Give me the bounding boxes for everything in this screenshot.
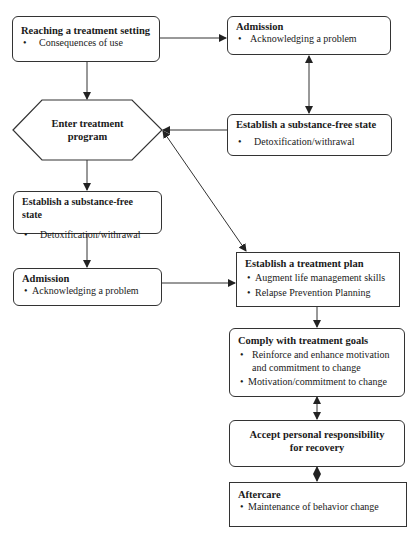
bullet-item: Reinforce and enhance motivation and com… <box>238 349 396 374</box>
bullet-item: Acknowledging a problem <box>22 285 153 298</box>
node-title: Establish a substance-free state <box>22 195 153 221</box>
bullet-item: Consequences of use <box>21 37 151 50</box>
node-enter-treatment-program: Enter treatment program <box>40 117 135 143</box>
node-substance-free-left: Establish a substance-free state Detoxif… <box>13 191 162 234</box>
node-title: Admission <box>236 20 382 33</box>
bullet-item: Motivation/commitment to change <box>238 376 396 389</box>
node-admission-left: Admission Acknowledging a problem <box>13 268 162 306</box>
node-reaching-treatment-setting: Reaching a treatment setting Consequence… <box>12 16 160 62</box>
bullet-item: Maintenance of behavior change <box>238 501 398 514</box>
node-admission-right: Admission Acknowledging a problem <box>227 16 391 55</box>
hex-line-2: program <box>40 130 135 143</box>
bullet-item: Detoxification/withrawal <box>22 229 153 242</box>
node-treatment-plan: Establish a treatment plan Augment life … <box>236 252 400 307</box>
node-title-line-2: for recovery <box>238 441 396 454</box>
node-substance-free-right: Establish a substance-free state Detoxif… <box>227 114 392 156</box>
hex-line-1: Enter treatment <box>40 117 135 130</box>
node-title: Reaching a treatment setting <box>21 24 151 37</box>
bullet-item: Relapse Prevention Planning <box>245 287 391 300</box>
node-aftercare: Aftercare Maintenance of behavior change <box>229 482 407 527</box>
node-title: Establish a substance-free state <box>236 118 383 131</box>
node-title: Admission <box>22 272 153 285</box>
node-title-line-1: Accept personal responsibility <box>238 428 396 441</box>
bullet-item: Acknowledging a problem <box>236 33 382 46</box>
node-accept-personal-responsibility: Accept personal responsibility for recov… <box>229 420 405 467</box>
node-title: Establish a treatment plan <box>245 257 391 270</box>
bullet-item: Detoxification/withrawal <box>236 136 383 149</box>
bullet-item: Augment life management skills <box>245 272 391 285</box>
node-title: Aftercare <box>238 488 398 501</box>
node-title: Comply with treatment goals <box>238 334 396 347</box>
node-comply-treatment-goals: Comply with treatment goals Reinforce an… <box>229 328 405 397</box>
